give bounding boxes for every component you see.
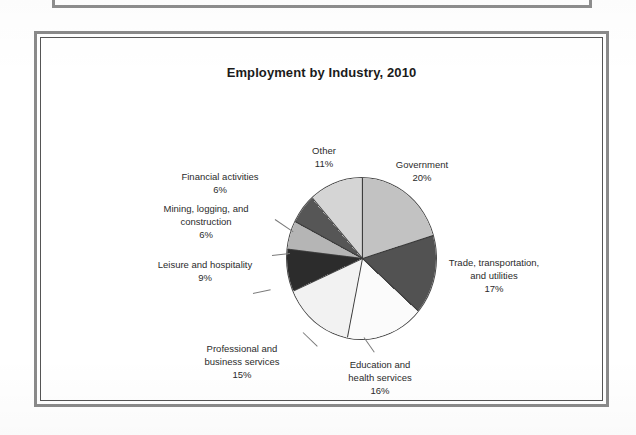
pie-label-financial-activities: Financial activities 6%	[165, 170, 275, 196]
pie-label-mining-logging-construction-line2: construction	[141, 215, 271, 228]
pie-label-trade-transportation-utilities-value: 17%	[433, 282, 555, 295]
figure-inner-border: Employment by Industry, 2010	[40, 37, 603, 401]
pie-label-trade-transportation-utilities: Trade, transportation, and utilities 17%	[433, 256, 555, 295]
chart-title: Employment by Industry, 2010	[41, 65, 602, 80]
pie-label-other-text: Other	[312, 145, 336, 156]
pie-label-other: Other 11%	[287, 144, 361, 170]
pie-label-government-value: 20%	[374, 171, 470, 184]
pie-label-professional-business-services-value: 15%	[177, 368, 307, 381]
slice-divider	[362, 178, 363, 259]
pie-label-education-health-services: Education and health services 16%	[321, 358, 439, 397]
leader-line-leisure-hospitality	[253, 289, 271, 294]
pie-label-mining-logging-construction: Mining, logging, and construction 6%	[141, 202, 271, 241]
pie-circle	[286, 177, 437, 340]
pie-label-education-health-services-line1: Education and	[350, 359, 411, 370]
pie-label-government-text: Government	[396, 159, 448, 170]
figure-frame: Employment by Industry, 2010	[34, 31, 609, 407]
pie-label-education-health-services-value: 16%	[321, 384, 439, 397]
pie-label-financial-activities-text: Financial activities	[181, 171, 258, 182]
pie-label-leisure-hospitality-value: 9%	[138, 271, 272, 284]
cropped-figure-frame-above	[52, 0, 592, 8]
pie-chart	[286, 177, 437, 340]
pie-label-professional-business-services-line1: Professional and	[207, 343, 278, 354]
pie-label-leisure-hospitality-text: Leisure and hospitality	[158, 259, 253, 270]
pie-label-leisure-hospitality: Leisure and hospitality 9%	[138, 258, 272, 284]
pie-label-mining-logging-construction-line1: Mining, logging, and	[163, 203, 248, 214]
pie-label-mining-logging-construction-value: 6%	[141, 228, 271, 241]
pie-label-trade-transportation-utilities-line1: Trade, transportation,	[449, 257, 539, 268]
pie-label-government: Government 20%	[374, 158, 470, 184]
pie-label-trade-transportation-utilities-line2: and utilities	[433, 269, 555, 282]
pie-label-financial-activities-value: 6%	[165, 183, 275, 196]
pie-label-professional-business-services-line2: business services	[177, 355, 307, 368]
pie-label-other-value: 11%	[287, 157, 361, 170]
pie-label-professional-business-services: Professional and business services 15%	[177, 342, 307, 381]
pie-label-education-health-services-line2: health services	[321, 371, 439, 384]
